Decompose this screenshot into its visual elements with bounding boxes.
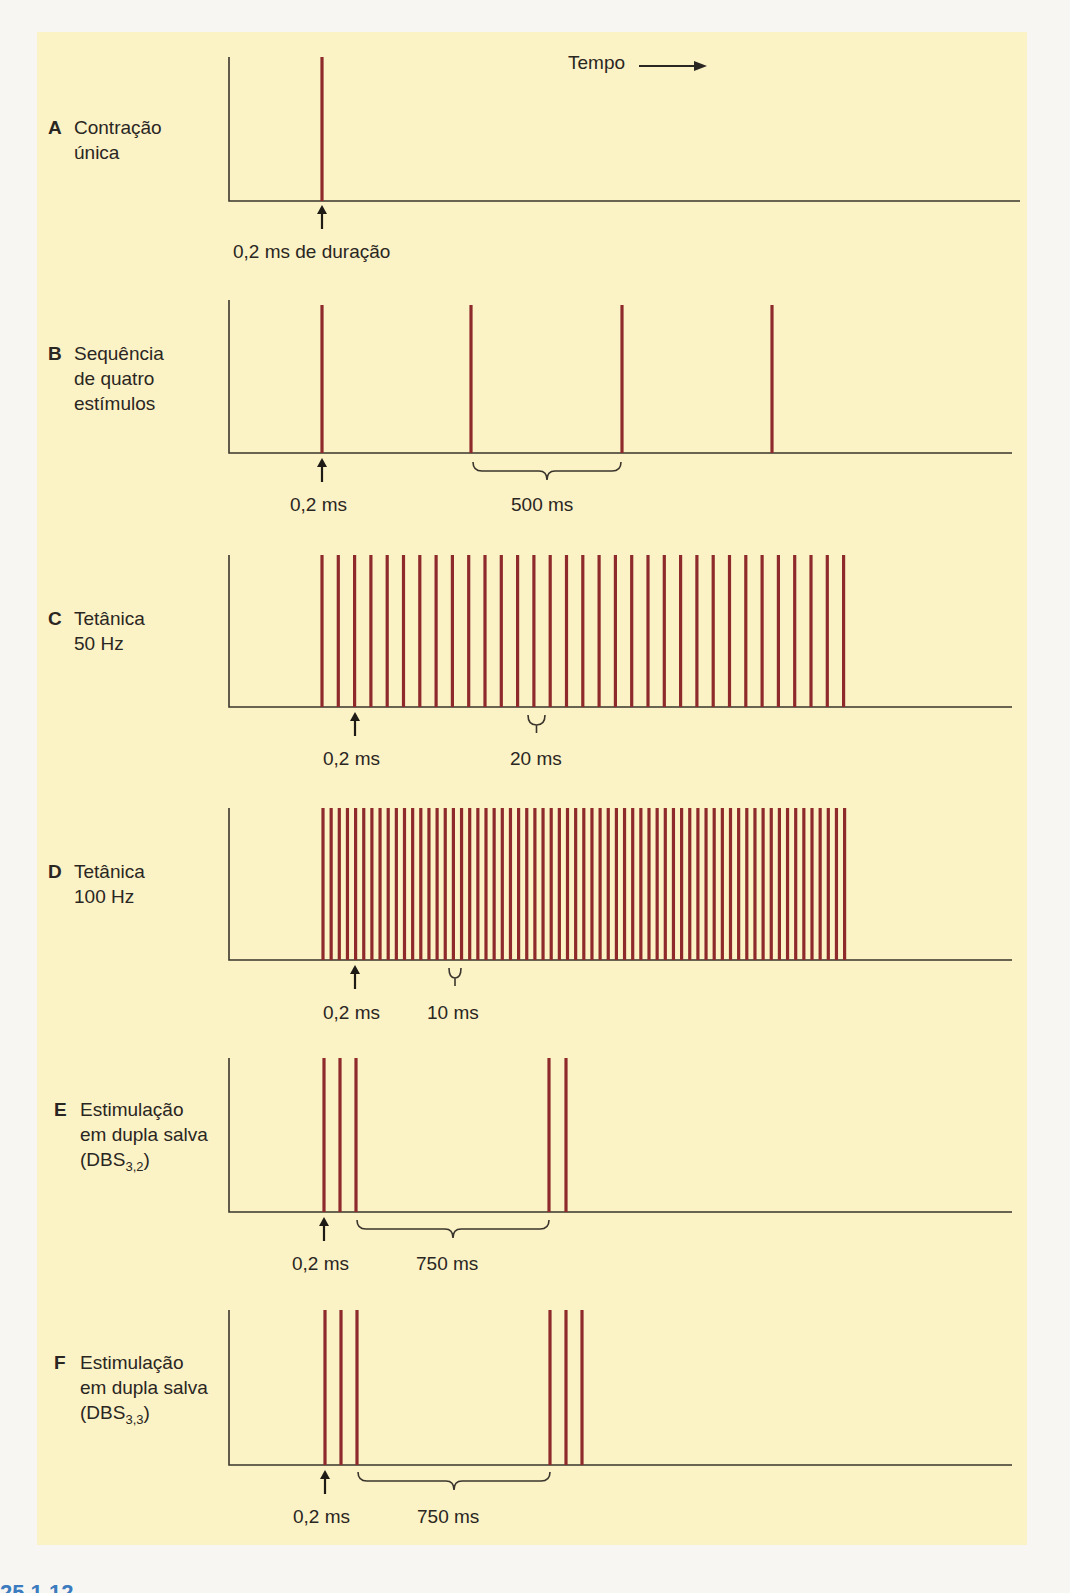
panel-letter: C [48, 606, 62, 631]
panel-title-line: 100 Hz [74, 884, 145, 909]
interval-brace [528, 715, 545, 733]
panel-title-line: Sequência [74, 341, 164, 366]
panel-title-line: estímulos [74, 391, 164, 416]
time-axis-label: Tempo [568, 52, 625, 74]
pulse-duration-annotation: 0,2 ms [290, 494, 347, 516]
panel-title-line: Estimulação [80, 1350, 208, 1375]
interval-annotation: 20 ms [510, 748, 562, 770]
panel-title-line: Contração [74, 115, 162, 140]
axis-lines [229, 57, 1020, 201]
arrow-up-icon [317, 205, 327, 214]
panel-title-line: (DBS3,2) [80, 1147, 208, 1172]
axis-lines [229, 1058, 1012, 1212]
panel-title-line: única [74, 140, 162, 165]
interval-annotation: 750 ms [417, 1506, 479, 1528]
panel-letter: E [54, 1097, 67, 1122]
interval-brace [358, 1472, 550, 1490]
panel-title-line: Tetânica [74, 859, 145, 884]
axis-lines [229, 555, 1012, 707]
panel-letter: B [48, 341, 62, 366]
interval-brace [449, 968, 461, 986]
arrow-up-icon [350, 712, 360, 721]
interval-annotation: 750 ms [416, 1253, 478, 1275]
panel-title-line: Tetânica [74, 606, 145, 631]
time-label: Tempo [568, 52, 625, 73]
arrow-up-icon [317, 458, 327, 467]
pulse-duration-annotation: 0,2 ms [323, 748, 380, 770]
interval-annotation: 500 ms [511, 494, 573, 516]
arrow-up-icon [350, 965, 360, 974]
interval-annotation: 10 ms [427, 1002, 479, 1024]
panel-letter: F [54, 1350, 66, 1375]
panel-title-line: (DBS3,3) [80, 1400, 208, 1425]
pulse-duration-annotation: 0,2 ms [323, 1002, 380, 1024]
arrow-up-icon [320, 1470, 330, 1479]
panel-letter: A [48, 115, 62, 140]
panel-title-line: Estimulação [80, 1097, 208, 1122]
panel-title-line: 50 Hz [74, 631, 145, 656]
axis-lines [229, 1310, 1012, 1465]
interval-brace [357, 1220, 549, 1238]
arrow-right-icon [694, 61, 707, 71]
pulse-duration-annotation: 0,2 ms de duração [233, 241, 390, 263]
figure-number-fragment: 25.1.12 [0, 1580, 73, 1593]
panel-title-line: em dupla salva [80, 1122, 208, 1147]
interval-brace [473, 462, 621, 480]
panel-title-line: em dupla salva [80, 1375, 208, 1400]
pulse-duration-annotation: 0,2 ms [293, 1506, 350, 1528]
pulse-duration-annotation: 0,2 ms [292, 1253, 349, 1275]
panel-letter: D [48, 859, 62, 884]
panel-title-line: de quatro [74, 366, 164, 391]
arrow-up-icon [319, 1217, 329, 1226]
